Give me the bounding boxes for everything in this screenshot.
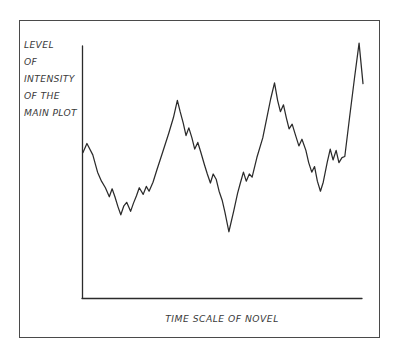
y-axis-label-line-5: MAIN PLOT xyxy=(24,107,78,118)
chart-figure: LEVEL OF INTENSITY OF THE MAIN PLOT TIME… xyxy=(0,0,399,358)
y-axis-label-line-4: OF THE xyxy=(24,90,60,101)
x-axis-label: TIME SCALE OF NOVEL xyxy=(165,313,279,324)
figure-border xyxy=(20,21,380,338)
chart-canvas: LEVEL OF INTENSITY OF THE MAIN PLOT TIME… xyxy=(0,0,399,358)
y-axis-label-line-2: OF xyxy=(24,56,38,67)
y-axis-label-line-1: LEVEL xyxy=(24,39,54,50)
y-axis-label-line-3: INTENSITY xyxy=(24,73,76,84)
